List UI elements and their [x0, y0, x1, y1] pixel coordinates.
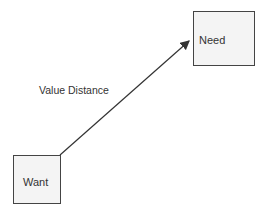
diagram-canvas: Need Want Value Distance — [0, 0, 269, 215]
edge-label-value-distance: Value Distance — [39, 84, 109, 96]
node-want: Want — [13, 155, 61, 204]
node-need: Need — [193, 11, 255, 66]
node-need-label: Need — [199, 34, 225, 46]
node-want-label: Want — [23, 176, 48, 188]
